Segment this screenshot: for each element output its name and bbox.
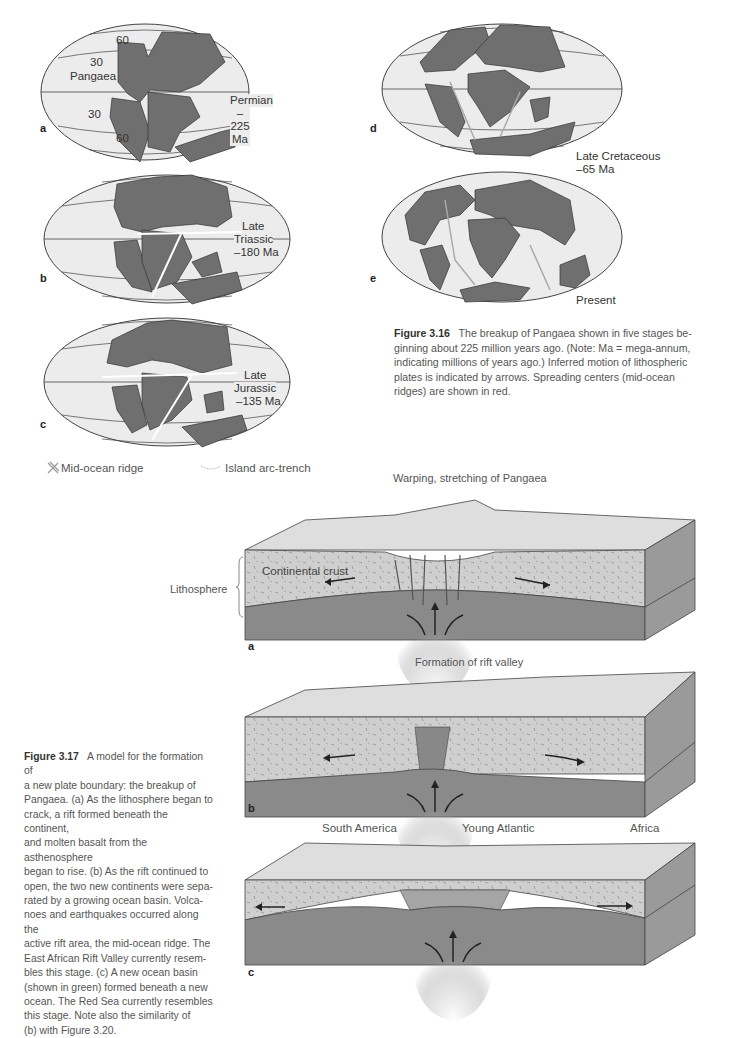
continental-crust-label: Continental crust <box>262 565 348 577</box>
south-america-label: South America <box>322 822 397 834</box>
legend-trench-label: Island arc-trench <box>225 462 311 474</box>
map-a-age-line1: Permian <box>230 94 273 107</box>
caption-line: bles this stage. (c) A new ocean basin <box>24 967 198 978</box>
map-e-globe <box>380 170 625 305</box>
map-b-age-line3: –180 Ma <box>234 246 279 259</box>
caption-line: East African Rift Valley currently resem… <box>24 953 206 964</box>
map-c-age-line2: Jurassic <box>234 382 276 395</box>
map-d-globe <box>380 22 625 157</box>
ridge-icon <box>46 461 60 475</box>
caption-line: rated by a growing ocean basin. Volca- <box>24 895 203 906</box>
map-a-age-line2: –225 Ma <box>230 107 250 146</box>
lat-label-60-s: 60 <box>116 132 129 145</box>
map-b-letter: b <box>40 272 47 284</box>
caption-line: (b) with Figure 3.20. <box>24 1025 116 1036</box>
caption-line: noes and earthquakes occurred along the <box>24 909 198 934</box>
figure-3-16-title: Figure 3.16 <box>394 327 450 339</box>
lat-label-30-n: 30 <box>90 56 103 69</box>
map-b-age-line1: Late <box>242 220 264 233</box>
caption-line: Pangaea. (a) As the lithosphere began to <box>24 794 213 805</box>
caption-line: active rift area, the mid-ocean ridge. T… <box>24 938 210 949</box>
caption-line: indicating millions of years ago.) Infer… <box>394 356 687 368</box>
block-a-title: Warping, stretching of Pangaea <box>393 472 547 484</box>
lithosphere-label: Lithosphere <box>170 583 228 595</box>
map-e <box>380 170 625 305</box>
map-b-age-line2: Triassic <box>234 233 273 246</box>
map-e-age-line1: Present <box>576 294 616 307</box>
caption-line: this stage. Note also the similarity of <box>24 1010 190 1021</box>
caption-line: a new plate boundary: the breakup of <box>24 780 196 791</box>
map-a: 60 30 Pangaea 30 60 Permian –225 Ma <box>40 22 250 162</box>
map-d-letter: d <box>370 122 377 134</box>
map-e-letter: e <box>370 272 376 284</box>
figure-3-16-caption: Figure 3.16 The breakup of Pangaea shown… <box>394 326 724 399</box>
caption-line: open, the two new continents were sepa- <box>24 881 213 892</box>
caption-line: and molten basalt from the asthenosphere <box>24 837 147 862</box>
lat-label-60-n: 60 <box>116 34 129 47</box>
map-c: Late Jurassic –135 Ma <box>42 315 292 450</box>
map-d-age-line1: Late Cretaceous <box>576 150 660 163</box>
map-c-age-line3: –135 Ma <box>236 395 281 408</box>
block-b-diagram <box>245 672 695 817</box>
trench-icon <box>200 464 222 472</box>
block-c-diagram <box>245 840 695 965</box>
caption-line: The breakup of Pangaea shown in five sta… <box>459 327 692 339</box>
map-a-globe <box>40 22 250 162</box>
block-b-title: Formation of rift valley <box>415 656 523 668</box>
africa-label: Africa <box>630 822 659 834</box>
map-d <box>380 22 625 157</box>
figure-3-17-title: Figure 3.17 <box>24 751 79 762</box>
lat-label-30-s: 30 <box>88 108 101 121</box>
caption-line: (shown in green) formed beneath a new <box>24 982 208 993</box>
figure-3-17-caption: Figure 3.17 A model for the formation of… <box>24 750 214 1038</box>
map-b: Late Triassic –180 Ma <box>42 172 292 307</box>
map-c-age-line1: Late <box>244 369 266 382</box>
caption-line: ginning about 225 million years ago. (No… <box>394 342 691 354</box>
legend-ridge-label: Mid-ocean ridge <box>61 462 143 474</box>
caption-line: ocean. The Red Sea currently resembles <box>24 996 213 1007</box>
young-atlantic-label: Young Atlantic <box>462 822 534 834</box>
caption-line: ridges) are shown in red. <box>394 385 511 397</box>
caption-line: plates is indicated by arrows. Spreading… <box>394 371 675 383</box>
caption-line: crack, a rift formed beneath the contine… <box>24 809 168 834</box>
map-c-letter: c <box>40 418 46 430</box>
block-c-letter: c <box>248 966 254 978</box>
region-label-pangaea: Pangaea <box>70 70 116 83</box>
caption-line: began to rise. (b) As the rift continued… <box>24 866 208 877</box>
lithosphere-brace-icon <box>236 556 244 618</box>
map-a-letter: a <box>40 122 46 134</box>
block-b-letter: b <box>248 802 255 814</box>
block-a-letter: a <box>248 640 254 652</box>
